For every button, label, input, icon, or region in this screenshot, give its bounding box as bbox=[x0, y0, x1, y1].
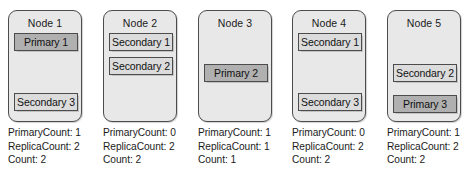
node-card[interactable]: Node 4Secondary 1Secondary 3 bbox=[292, 10, 366, 122]
stat-primary-count: PrimaryCount: 1 bbox=[198, 126, 271, 140]
replica-primary[interactable]: Primary 2 bbox=[204, 64, 268, 82]
stat-primary-count: PrimaryCount: 0 bbox=[292, 126, 365, 140]
node-title: Node 5 bbox=[388, 17, 460, 29]
stat-replica-count: ReplicaCount: 1 bbox=[198, 140, 271, 154]
node-stats: PrimaryCount: 1ReplicaCount: 2Count: 2 bbox=[387, 126, 460, 167]
node-card[interactable]: Node 1Primary 1Secondary 3 bbox=[8, 10, 82, 122]
stat-replica-count: ReplicaCount: 2 bbox=[292, 140, 365, 154]
node-title: Node 1 bbox=[9, 17, 81, 29]
stat-primary-count: PrimaryCount: 1 bbox=[8, 126, 81, 140]
node-stats: PrimaryCount: 0ReplicaCount: 2Count: 2 bbox=[292, 126, 365, 167]
node-card[interactable]: Node 3Primary 2 bbox=[198, 10, 272, 122]
node-title: Node 4 bbox=[293, 17, 365, 29]
node-card[interactable]: Node 5Secondary 2Primary 3 bbox=[387, 10, 461, 122]
replica-primary[interactable]: Primary 1 bbox=[14, 33, 78, 51]
node-stats: PrimaryCount: 0ReplicaCount: 2Count: 2 bbox=[103, 126, 176, 167]
stat-count: Count: 1 bbox=[198, 153, 271, 167]
stat-primary-count: PrimaryCount: 1 bbox=[387, 126, 460, 140]
node-column: Node 2Secondary 1Secondary 2PrimaryCount… bbox=[95, 0, 190, 173]
replica-secondary[interactable]: Secondary 3 bbox=[14, 93, 78, 111]
node-stats: PrimaryCount: 1ReplicaCount: 1Count: 1 bbox=[198, 126, 271, 167]
node-title: Node 2 bbox=[104, 17, 176, 29]
stat-replica-count: ReplicaCount: 2 bbox=[8, 140, 81, 154]
replica-secondary[interactable]: Secondary 2 bbox=[393, 64, 457, 82]
node-title: Node 3 bbox=[199, 17, 271, 29]
node-card[interactable]: Node 2Secondary 1Secondary 2 bbox=[103, 10, 177, 122]
replica-secondary[interactable]: Secondary 1 bbox=[298, 33, 362, 51]
node-stats: PrimaryCount: 1ReplicaCount: 2Count: 2 bbox=[8, 126, 81, 167]
stat-replica-count: ReplicaCount: 2 bbox=[103, 140, 176, 154]
node-column: Node 1Primary 1Secondary 3PrimaryCount: … bbox=[0, 0, 95, 173]
stat-count: Count: 2 bbox=[8, 153, 81, 167]
stat-count: Count: 2 bbox=[292, 153, 365, 167]
stat-count: Count: 2 bbox=[103, 153, 176, 167]
replica-secondary[interactable]: Secondary 3 bbox=[298, 93, 362, 111]
stat-replica-count: ReplicaCount: 2 bbox=[387, 140, 460, 154]
replica-secondary[interactable]: Secondary 1 bbox=[109, 33, 173, 51]
stat-primary-count: PrimaryCount: 0 bbox=[103, 126, 176, 140]
replica-secondary[interactable]: Secondary 2 bbox=[109, 57, 173, 75]
cluster-diagram: Node 1Primary 1Secondary 3PrimaryCount: … bbox=[0, 0, 476, 173]
replica-primary[interactable]: Primary 3 bbox=[393, 95, 457, 113]
node-column: Node 4Secondary 1Secondary 3PrimaryCount… bbox=[284, 0, 379, 173]
node-column: Node 5Secondary 2Primary 3PrimaryCount: … bbox=[379, 0, 474, 173]
node-column: Node 3Primary 2PrimaryCount: 1ReplicaCou… bbox=[190, 0, 285, 173]
stat-count: Count: 2 bbox=[387, 153, 460, 167]
